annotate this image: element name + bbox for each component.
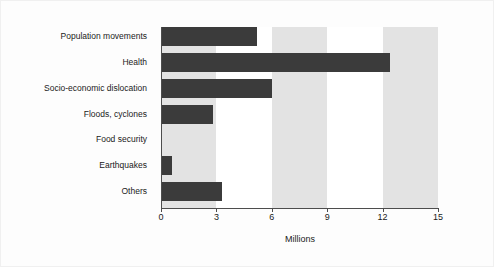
x-axis-line	[161, 208, 439, 209]
x-tick-label-0: 0	[158, 213, 163, 222]
y-label-health: Health	[122, 58, 147, 67]
x-axis-title: Millions	[161, 234, 439, 244]
bar-population-movements	[161, 27, 257, 46]
x-tick-label-9: 9	[325, 213, 330, 222]
plot-area	[161, 27, 438, 208]
bar-health	[161, 53, 390, 72]
bar-chart-figure: Population movements Health Socio-econom…	[0, 0, 494, 267]
y-axis-labels: Population movements Health Socio-econom…	[1, 27, 155, 208]
bar-floods-cyclones	[161, 105, 213, 124]
y-axis-line	[161, 27, 162, 209]
y-label-others: Others	[121, 187, 147, 196]
y-label-food-security: Food security	[96, 135, 147, 144]
x-tick-label-15: 15	[433, 213, 443, 222]
bar-others	[161, 182, 222, 201]
x-tick-label-3: 3	[214, 213, 219, 222]
x-tick-label-12: 12	[378, 213, 388, 222]
bar-socio-economic-dislocation	[161, 79, 272, 98]
y-label-population-movements: Population movements	[61, 32, 147, 41]
bar-earthquakes	[161, 156, 172, 175]
y-label-floods-cyclones: Floods, cyclones	[84, 110, 147, 119]
background-band	[383, 27, 438, 208]
y-label-earthquakes: Earthquakes	[99, 161, 147, 170]
y-label-socio-economic-dislocation: Socio-economic dislocation	[44, 84, 147, 93]
x-tick-label-6: 6	[269, 213, 274, 222]
